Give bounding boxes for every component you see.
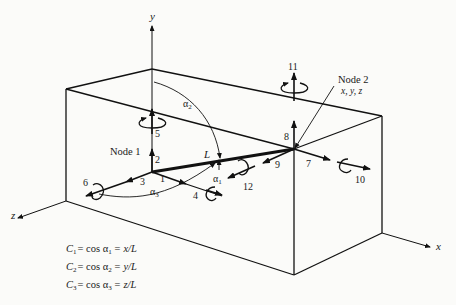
node1-label: Node 1 [110, 146, 141, 157]
dof-1-arrow [152, 172, 186, 184]
x-axis [382, 233, 430, 247]
dof-label-2: 2 [155, 154, 160, 165]
z-axis-label: z [10, 209, 16, 221]
z-axis [18, 201, 66, 218]
alpha3-label: α3 [150, 186, 159, 199]
dof-label-7: 7 [306, 158, 311, 169]
dof-label-9: 9 [275, 159, 280, 170]
dof-label-6: 6 [83, 177, 88, 188]
dof-3-arrow [126, 172, 152, 182]
global-axes [18, 26, 430, 247]
alpha2-label: α2 [183, 98, 192, 111]
dof-7-arrow [294, 149, 330, 160]
dof-label-8: 8 [284, 131, 289, 142]
dof-label-5: 5 [155, 128, 160, 139]
dof-10-arrow [337, 162, 370, 169]
dof-label-10: 10 [355, 174, 365, 185]
equation-c2: C2= cos α2= y/L [66, 261, 137, 274]
rotation-10-icon [340, 159, 351, 173]
alpha1-label: α1 [213, 173, 222, 186]
dof-4-arrow-head [206, 190, 222, 195]
dof-label-11: 11 [288, 61, 298, 72]
space-frame-element-diagram: y z x L Node 1 No [0, 0, 456, 305]
node2-coords-label: x, y, z [340, 86, 362, 96]
direction-cosine-equations: C1= cos α1= x/L C2= cos α2= y/L C3= cos … [66, 243, 137, 292]
node2-leader [295, 86, 334, 148]
element-length-label: L [203, 148, 210, 160]
dof-6-arrow [86, 182, 126, 196]
dof-12-arrow [228, 166, 255, 178]
node2-label: Node 2 [338, 74, 369, 85]
x-axis-label: x [435, 240, 441, 252]
element-line [152, 149, 294, 172]
dof-label-3: 3 [140, 176, 145, 187]
dof-label-12: 12 [243, 181, 253, 192]
y-axis-label: y [149, 10, 155, 22]
dof-label-4: 4 [193, 190, 198, 201]
equation-c1: C1= cos α1= x/L [66, 243, 137, 256]
dof-4-arrow [186, 184, 222, 196]
equation-c3: C3= cos α3= z/L [66, 279, 136, 292]
dof-label-1: 1 [160, 173, 165, 184]
